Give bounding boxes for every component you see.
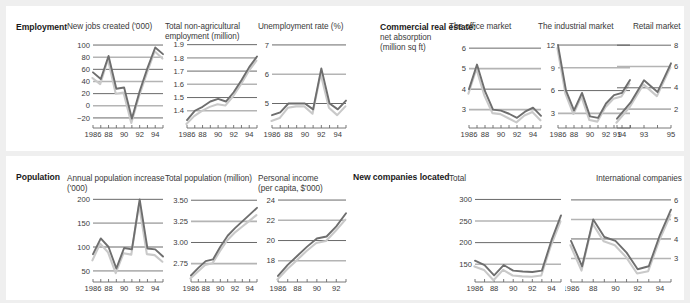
x-tick-label: 91 [613,130,621,139]
x-tick-label: 88 [589,284,597,293]
x-tick-label: 1986 [85,130,102,139]
chart-title-line: employment (million) [165,32,240,42]
chart-title-office-market: The office market [449,22,511,32]
y-tick-label: 4 [674,83,678,92]
x-tick-label: 95 [667,130,675,139]
series-line-shadow [570,215,670,274]
chart-title-line: Total population (million) [165,174,252,184]
chart-title-industrial-market: The industrial market [538,22,613,32]
chart-title-line: The office market [449,22,511,32]
y-tick-label: 1.8 [173,54,184,63]
series-line-main [272,68,346,115]
y-tick-label: 3.00 [173,238,188,247]
x-tick-label: 92 [513,130,521,139]
series-line-main [191,208,257,276]
x-tick-label: 92 [602,130,610,139]
x-tick-label: 88 [104,284,112,293]
chart-title-line: Total [449,174,466,184]
chart-title-annual-population-increase: Annual population increase('000) [67,174,164,193]
y-tick-label: 5 [674,215,678,224]
x-tick-label: 92 [317,130,325,139]
y-tick-label: 6 [674,62,678,71]
y-tick-label: 20 [82,89,90,98]
section-label-employment: Employment [16,22,67,33]
y-tick-label: 8 [674,41,678,50]
x-tick-label: 88 [570,130,578,139]
x-tick-label: 90 [313,284,321,293]
y-tick-label: 20 [267,236,275,245]
x-tick-label: 90 [586,130,594,139]
series-line-shadow [616,67,670,122]
y-tick-label: 5 [265,99,269,108]
chart-title-line: Personal income [258,174,323,184]
series-line-main [93,199,163,268]
y-tick-label: 18 [267,256,275,265]
y-tick-label: 1.5 [173,93,184,102]
x-tick-label: 92 [231,284,239,293]
y-tick-label: 2 [674,105,678,114]
x-tick-label: 90 [301,130,309,139]
chart-companies-total: 300250200150198688909294 [449,170,567,300]
series-line-shadow [92,51,162,123]
y-tick-label: 6 [265,70,269,79]
y-tick-label: 1.7 [173,67,184,76]
y-tick-label: 1.9 [173,40,184,49]
x-tick-label: 94 [529,130,537,139]
y-tick-label: 100 [77,41,90,50]
chart-title-international-companies: International companies [596,174,682,184]
y-tick-label: 4 [462,85,466,94]
x-tick-label: 1986 [270,284,287,293]
chart-svg-office-market: 6543198688909294 [449,18,545,146]
x-tick-label: 90 [611,284,619,293]
x-tick-label: 94 [547,284,555,293]
series-line-shadow [468,69,540,122]
y-tick-label: 60 [82,65,90,74]
x-tick-label: 93 [640,130,648,139]
x-tick-label: 92 [135,284,143,293]
series-line-main [571,210,671,270]
chart-title-personal-income: Personal income(per capita, $'000) [258,174,323,193]
y-tick-label: 80 [82,53,90,62]
y-tick-label: 24 [267,196,275,205]
chart-retail-market: 8642919395 [613,18,687,146]
x-tick-label: 92 [332,284,340,293]
series-line-shadow [92,205,162,274]
x-tick-label: 90 [509,284,517,293]
chart-title-line: Unemployment rate (%) [258,22,343,32]
series-line-shadow [186,61,256,124]
section-label-employment-text: Employment [16,22,67,32]
chart-svg-unemployment-rate: 765198688909294 [258,18,350,146]
section-label-population-text: Population [16,172,60,182]
section-label-population: Population [16,172,60,183]
y-tick-label: 40 [82,77,90,86]
x-tick-label: 88 [201,284,209,293]
x-tick-label: 92 [135,130,143,139]
x-tick-label: 88 [293,284,301,293]
x-tick-label: 1986 [264,130,281,139]
series-line-shadow [271,74,345,121]
y-tick-label: 150 [77,219,90,228]
y-tick-label: 3.25 [173,217,188,226]
x-tick-label: 1986 [550,130,567,139]
y-tick-label: 3 [674,254,678,263]
chart-title-line: (per capita, $'000) [258,184,323,194]
x-tick-label: 94 [151,130,159,139]
y-tick-label: 300 [459,195,472,204]
chart-svg-total-population: 3.503.253.002.75198688909294 [165,170,261,300]
x-tick-label: 1986 [467,284,484,293]
x-tick-label: 1986 [565,284,579,293]
y-tick-label: 22 [267,216,275,225]
y-tick-label: 6 [462,44,466,53]
y-tick-label: 100 [77,243,90,252]
section-label-companies: New companies located [353,172,449,183]
x-tick-label: 90 [497,130,505,139]
chart-title-line: International companies [596,174,682,184]
y-tick-label: 200 [459,238,472,247]
chart-title-new-jobs-created: New jobs created ('000) [67,22,152,32]
x-tick-label: 90 [216,284,224,293]
x-tick-label: 88 [284,130,292,139]
chart-international-companies: 6543198688909294 [565,170,687,300]
chart-svg-international-companies: 6543198688909294 [565,170,687,300]
chart-title-line: Annual population increase [67,174,164,184]
x-tick-label: 92 [633,284,641,293]
